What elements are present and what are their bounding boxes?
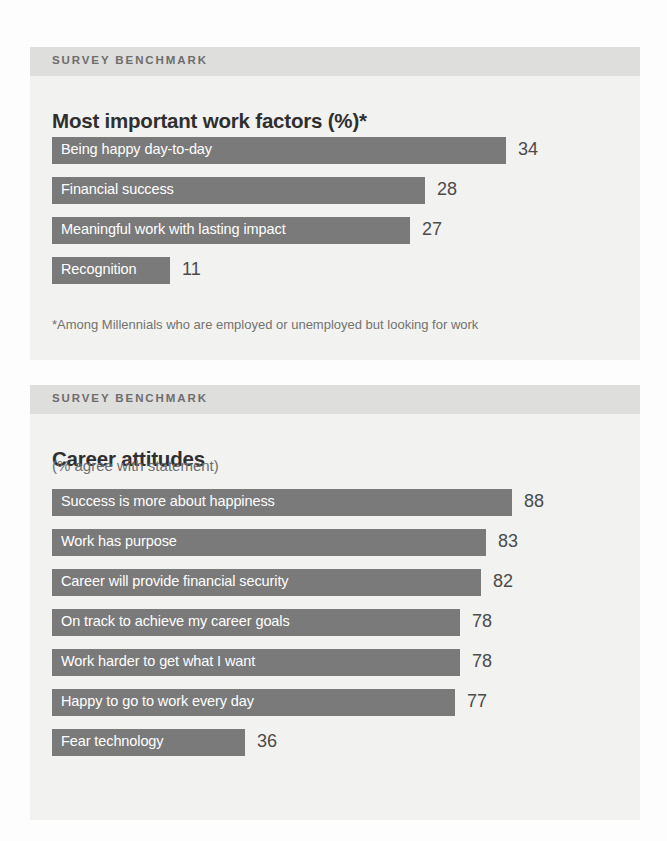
bar-label: Work has purpose — [61, 533, 177, 549]
bar-chart-work-factors: Being happy day-to-day 34 Financial succ… — [52, 137, 630, 297]
bar-value: 77 — [467, 691, 487, 712]
bar-value: 82 — [493, 571, 513, 592]
bar-row: Meaningful work with lasting impact 27 — [52, 217, 630, 244]
bar-label: Meaningful work with lasting impact — [61, 221, 286, 237]
bar-fill: Meaningful work with lasting impact — [52, 217, 410, 244]
bar-fill: Work has purpose — [52, 529, 486, 556]
bar-chart-career-attitudes: Success is more about happiness 88 Work … — [52, 489, 630, 769]
bar-row: On track to achieve my career goals 78 — [52, 609, 630, 636]
bar-row: Fear technology 36 — [52, 729, 630, 756]
bar-value: 78 — [472, 651, 492, 672]
bar-row: Happy to go to work every day 77 — [52, 689, 630, 716]
bar-value: 28 — [437, 179, 457, 200]
survey-card-career-attitudes: SURVEY BENCHMARK Career attitudes (% agr… — [30, 385, 640, 820]
bar-label: Happy to go to work every day — [61, 693, 254, 709]
bar-row: Career will provide financial security 8… — [52, 569, 630, 596]
bar-fill: On track to achieve my career goals — [52, 609, 460, 636]
bar-label: Success is more about happiness — [61, 493, 275, 509]
bar-fill: Being happy day-to-day — [52, 137, 506, 164]
bar-label: Career will provide financial security — [61, 573, 289, 589]
bar-label: Work harder to get what I want — [61, 653, 255, 669]
card-subtitle: (% agree with statement) — [52, 457, 219, 474]
bar-fill: Success is more about happiness — [52, 489, 512, 516]
bar-value: 34 — [518, 139, 538, 160]
bar-fill: Career will provide financial security — [52, 569, 481, 596]
bar-fill: Fear technology — [52, 729, 245, 756]
bar-fill: Recognition — [52, 257, 170, 284]
card-eyebrow: SURVEY BENCHMARK — [52, 392, 208, 404]
bar-value: 11 — [182, 259, 201, 280]
bar-row: Being happy day-to-day 34 — [52, 137, 630, 164]
bar-row: Financial success 28 — [52, 177, 630, 204]
chart-footnote: *Among Millennials who are employed or u… — [52, 317, 478, 332]
bar-row: Work harder to get what I want 78 — [52, 649, 630, 676]
bar-fill: Work harder to get what I want — [52, 649, 460, 676]
bar-value: 27 — [422, 219, 442, 240]
card-eyebrow: SURVEY BENCHMARK — [52, 54, 208, 66]
bar-value: 88 — [524, 491, 544, 512]
page-root: SURVEY BENCHMARK Most important work fac… — [0, 0, 667, 841]
bar-label: Financial success — [61, 181, 174, 197]
survey-card-work-factors: SURVEY BENCHMARK Most important work fac… — [30, 47, 640, 360]
bar-value: 83 — [498, 531, 518, 552]
bar-label: Fear technology — [61, 733, 163, 749]
bar-label: On track to achieve my career goals — [61, 613, 290, 629]
page-title: Most important work factors (%)* — [52, 109, 367, 133]
bar-row: Success is more about happiness 88 — [52, 489, 630, 516]
bar-label: Being happy day-to-day — [61, 141, 212, 157]
bar-value: 36 — [257, 731, 277, 752]
bar-row: Work has purpose 83 — [52, 529, 630, 556]
bar-label: Recognition — [61, 261, 136, 277]
bar-fill: Financial success — [52, 177, 425, 204]
bar-fill: Happy to go to work every day — [52, 689, 455, 716]
bar-row: Recognition 11 — [52, 257, 630, 284]
bar-value: 78 — [472, 611, 492, 632]
